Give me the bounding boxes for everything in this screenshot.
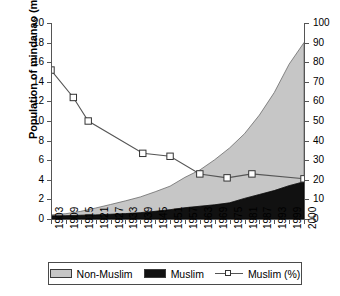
x-tick [215,220,216,224]
x-tick [230,220,231,224]
y-tick-left [47,121,51,122]
x-tick-label: 1921 [100,207,110,229]
x-tick [51,220,52,224]
y-tick-label-right: 20 [313,175,324,185]
x-tick [289,220,290,224]
legend-swatch-non-muslim [50,269,72,278]
y-tick-label-left: 8 [38,136,44,146]
x-tick [155,220,156,224]
y-tick-label-right: 70 [313,77,324,87]
y-tick-label-left: 14 [33,77,44,87]
legend-label-muslim-percent: Muslim (%) [248,268,301,280]
x-tick [140,220,141,224]
x-tick-label: 1981 [249,207,259,229]
y-tick-label-right: 90 [313,38,324,48]
y-tick-left [47,82,51,83]
chart-container: Population of mindanao (millions) 024681… [0,0,340,296]
y-tick-label-right: 40 [313,136,324,146]
x-tick-label: 2000 [308,207,318,229]
x-tick-label: 1927 [115,207,125,229]
legend-item-muslim: Muslim [144,268,204,280]
x-tick [170,220,171,224]
y-tick-right [305,43,309,44]
x-tick [66,220,67,224]
x-tick [125,220,126,224]
legend-item-non-muslim: Non-Muslim [50,268,133,280]
legend-swatch-muslim [144,269,166,278]
x-tick-label: 1909 [70,207,80,229]
chart-legend: Non-Muslim Muslim Muslim (%) [48,262,302,285]
y-tick-left [47,180,51,181]
y-tick-label-left: 2 [38,194,44,204]
y-tick-label-right: 10 [313,194,324,204]
legend-swatch-muslim-percent [215,269,243,278]
y-tick-label-left: 16 [33,57,44,67]
x-tick [185,220,186,224]
y-tick-label-left: 10 [33,116,44,126]
y-tick-right [305,121,309,122]
x-tick-label: 1987 [263,207,273,229]
y-tick-right [305,199,309,200]
x-tick-label: 1969 [219,207,229,229]
y-tick-right [305,141,309,142]
y-tick-left [47,101,51,102]
x-tick-label: 1945 [159,207,169,229]
y-tick-left [47,43,51,44]
y-tick-label-right: 50 [313,116,324,126]
y-tick-right [305,180,309,181]
x-tick-label: 1975 [234,207,244,229]
y-tick-label-left: 18 [33,38,44,48]
x-tick-label: 1999 [293,207,303,229]
y-tick-left [47,199,51,200]
x-tick [96,220,97,224]
x-tick-label: 1963 [204,207,214,229]
y-tick-left [47,141,51,142]
x-tick-label: 1951 [174,207,184,229]
x-tick-label: 1933 [129,207,139,229]
y-tick-label-right: 30 [313,155,324,165]
y-tick-label-left: 6 [38,155,44,165]
legend-label-non-muslim: Non-Muslim [77,268,133,280]
legend-item-muslim-percent: Muslim (%) [215,268,301,280]
y-tick-right [305,62,309,63]
y-tick-left [47,62,51,63]
x-tick-label: 1939 [144,207,154,229]
x-tick [81,220,82,224]
y-tick-label-left: 20 [33,18,44,28]
x-tick [274,220,275,224]
y-tick-left [47,23,51,24]
y-tick-right [305,23,309,24]
y-tick-label-right: 60 [313,96,324,106]
y-tick-label-right: 80 [313,57,324,67]
x-tick [111,220,112,224]
y-tick-label-left: 4 [38,175,44,185]
plot-area: 02468101214161820 0102030405060708090100… [51,23,305,220]
x-tick [304,220,305,224]
y-tick-right [305,101,309,102]
left-axis-line [51,23,52,220]
y-tick-right [305,160,309,161]
legend-label-muslim: Muslim [171,268,204,280]
y-tick-right [305,82,309,83]
y-tick-left [47,160,51,161]
x-tick [245,220,246,224]
chart-plot-svg [51,23,305,220]
y-tick-label-left: 0 [38,214,44,224]
x-tick-label: 1903 [55,207,65,229]
y-tick-label-left: 12 [33,96,44,106]
x-tick-label: 1993 [278,207,288,229]
x-tick [259,220,260,224]
x-tick [200,220,201,224]
x-tick-label: 1957 [189,207,199,229]
y-tick-label-right: 100 [313,18,330,28]
x-tick-label: 1915 [85,207,95,229]
